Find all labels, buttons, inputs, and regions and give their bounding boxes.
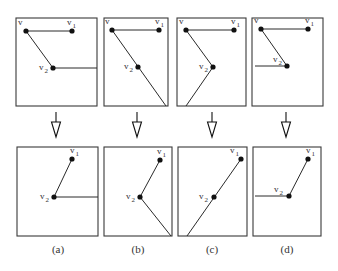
panel-c-after-graph: v1v2 bbox=[178, 145, 247, 236]
panel-d-after-graph: v1v2 bbox=[253, 145, 321, 236]
panel-d-after-label-v2: v2 bbox=[274, 184, 284, 197]
panel-a-after-graph: v1v2 bbox=[17, 145, 98, 236]
panel-d-after-node-v2 bbox=[286, 193, 291, 198]
panel-a-before-node-v2 bbox=[50, 65, 55, 70]
panel-caption: (c) bbox=[206, 243, 219, 256]
panel-d-before-label-v2: v2 bbox=[273, 54, 283, 67]
panel-a-before-graph: vv1v2 bbox=[16, 17, 97, 106]
panel-d-after-node-v1 bbox=[305, 156, 310, 161]
panel-a-after-edge bbox=[54, 159, 72, 197]
panel-caption: (b) bbox=[132, 243, 145, 256]
panel-a: vv1v2v1v2(a) bbox=[16, 17, 98, 256]
panel-b-before-label-v: v bbox=[105, 16, 110, 26]
panel-d-before-label-v1: v1 bbox=[305, 15, 315, 28]
panel-b-before-label-v2: v2 bbox=[124, 61, 134, 74]
panel-c-before-label-v2: v2 bbox=[199, 61, 209, 74]
panel-a-before-label-v: v bbox=[18, 17, 23, 27]
panel-b-before-node-v2 bbox=[135, 64, 140, 69]
panel-b-after-node-v2 bbox=[137, 194, 142, 199]
panel-b-before-node-v bbox=[109, 27, 114, 32]
panel-d-after-edge bbox=[289, 159, 308, 196]
panel-b-after-edge bbox=[140, 197, 171, 236]
panel-a-after-node-v2 bbox=[51, 194, 56, 199]
panel-c: vv1v2v1v2(c) bbox=[177, 16, 247, 256]
panel-a-before-node-v bbox=[23, 28, 28, 33]
panel-d-before-graph: vv1v2 bbox=[252, 15, 323, 106]
panel-c-before-label-v: v bbox=[179, 16, 184, 26]
panel-c-after-node-v1 bbox=[238, 156, 243, 161]
panel-b-after-edge bbox=[140, 160, 160, 197]
panel-caption: (d) bbox=[281, 243, 294, 256]
panel-c-after-node-v2 bbox=[211, 194, 216, 199]
panel-a-before-label-v2: v2 bbox=[39, 62, 49, 75]
down-arrow-icon bbox=[282, 112, 291, 137]
down-arrow-icon bbox=[133, 112, 142, 137]
panel-caption: (a) bbox=[52, 243, 65, 256]
panel-d-before-label-v: v bbox=[254, 15, 259, 25]
graph-transformation-figure: vv1v2v1v2(a)vv1v2v1v2(b)vv1v2v1v2(c)vv1v… bbox=[0, 0, 338, 271]
down-arrow-icon bbox=[208, 112, 217, 137]
panel-a-after-frame bbox=[17, 147, 98, 236]
panel-d-before-node-v bbox=[258, 26, 263, 31]
panel-c-after-label-v2: v2 bbox=[199, 191, 209, 204]
panel-b-before-graph: vv1v2 bbox=[104, 16, 168, 106]
panel-a-before-label-v1: v1 bbox=[67, 17, 77, 30]
panel-d-after-frame bbox=[253, 147, 321, 236]
panel-c-before-node-v bbox=[183, 27, 188, 32]
down-arrow-icon bbox=[52, 112, 61, 137]
panel-b: vv1v2v1v2(b) bbox=[104, 16, 172, 256]
panel-d-before-node-v2 bbox=[284, 63, 289, 68]
panel-c-before-node-v2 bbox=[210, 64, 215, 69]
panel-b-after-label-v2: v2 bbox=[126, 191, 136, 204]
panel-c-before-edge bbox=[186, 67, 213, 106]
panel-a-after-label-v2: v2 bbox=[40, 191, 50, 204]
panel-b-after-graph: v1v2 bbox=[104, 146, 172, 236]
panel-c-after-frame bbox=[178, 147, 247, 236]
panel-b-after-label-v1: v1 bbox=[157, 146, 167, 159]
panel-a-after-node-v1 bbox=[69, 156, 74, 161]
panel-d: vv1v2v1v2(d) bbox=[252, 15, 323, 256]
panel-c-before-graph: vv1v2 bbox=[177, 16, 246, 106]
